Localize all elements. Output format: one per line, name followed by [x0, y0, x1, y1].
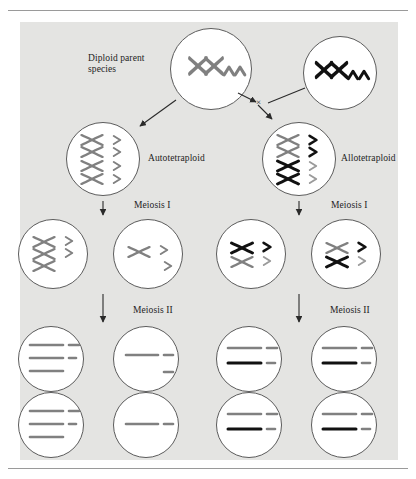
gamete-auto-lower-left	[18, 392, 84, 458]
bottom-rule	[8, 468, 408, 469]
meiosis-one-allo-left	[216, 219, 286, 289]
label-meiosis-two-right: Meiosis II	[330, 305, 370, 316]
top-rule	[8, 10, 408, 11]
label-autotetraploid: Autotetraploid	[148, 153, 205, 164]
meiosis-one-auto-left	[18, 219, 88, 289]
autotetraploid-cell	[66, 122, 140, 196]
diploid-parent-right	[303, 36, 377, 110]
figure-root: Diploid parent species Autotetraploid Al…	[0, 0, 416, 479]
gamete-auto-lower-right	[113, 392, 179, 458]
diploid-parent-left	[170, 28, 252, 110]
gamete-auto-upper-left	[18, 326, 84, 392]
label-allotetraploid: Allotetraploid	[341, 153, 396, 164]
gamete-allo-lower-left	[216, 392, 282, 458]
gamete-allo-lower-right	[311, 392, 377, 458]
label-meiosis-one-left: Meiosis I	[134, 200, 171, 211]
label-diploid-parent-species: Diploid parent species	[88, 53, 170, 75]
label-meiosis-two-left: Meiosis II	[133, 305, 173, 316]
meiosis-one-allo-right	[311, 219, 381, 289]
gamete-auto-upper-right	[113, 326, 179, 392]
gamete-allo-upper-left	[216, 326, 282, 392]
label-meiosis-one-right: Meiosis I	[331, 200, 368, 211]
label-cross-symbol: ×	[256, 97, 261, 108]
allotetraploid-cell	[262, 122, 336, 196]
meiosis-one-auto-right	[113, 219, 183, 289]
gamete-allo-upper-right	[311, 326, 377, 392]
